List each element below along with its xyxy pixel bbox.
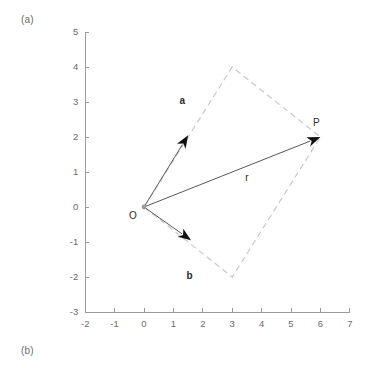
x-tick-label: 4 [259,318,264,329]
vector-label-a: a [179,95,185,106]
x-tick-label: -1 [110,318,118,329]
vector-label-b: b [187,270,193,281]
arrow-head-b [178,229,192,241]
origin-marker [142,205,147,210]
y-tick-label: -1 [70,236,78,247]
vector-labels: OPabr [129,95,320,281]
x-tick-label: 0 [141,318,146,329]
axis-ticks [85,32,350,312]
point-label-p: P [313,117,320,128]
vector-shaft-a [144,145,182,207]
x-tick-label: 1 [171,318,176,329]
x-tick-label: -2 [81,318,89,329]
x-tick-label: 6 [318,318,323,329]
y-tick-label: 3 [73,96,78,107]
y-tick-label: 1 [73,166,78,177]
y-tick-label: 4 [73,61,78,72]
y-tick-label: 2 [73,131,78,142]
figure-container: (a) (b) -2-101234567543210-1-2-3 OPabr [0,0,385,368]
x-tick-label: 7 [347,318,352,329]
axes [85,32,350,312]
x-tick-label: 5 [288,318,293,329]
vector-diagram-plot: -2-101234567543210-1-2-3 OPabr [0,0,385,368]
y-tick-label: -2 [70,271,78,282]
axis-tick-labels: -2-101234567543210-1-2-3 [70,26,353,329]
y-tick-label: -3 [70,306,78,317]
vector-label-r: r [245,172,249,183]
point-label-o: O [129,210,137,221]
points [142,205,147,210]
y-tick-label: 0 [73,201,78,212]
vector-shaft-r [144,141,310,207]
x-tick-label: 2 [200,318,205,329]
x-tick-label: 3 [230,318,235,329]
vectors [144,135,320,240]
vector-shaft-b [144,207,182,234]
y-tick-label: 5 [73,26,78,37]
